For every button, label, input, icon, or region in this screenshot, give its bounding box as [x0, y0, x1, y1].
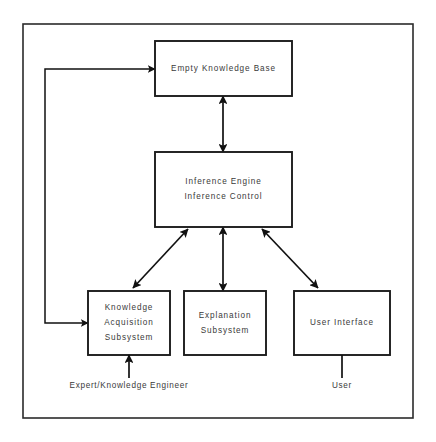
node-label-knowledge-acquisition-subsystem: Knowledge: [105, 303, 154, 312]
node-label-user-interface: User Interface: [310, 318, 374, 327]
caption-user: User: [332, 355, 352, 390]
node-box-inference-engine: [155, 152, 292, 227]
nodes-layer: Empty Knowledge BaseInference EngineInfe…: [88, 41, 390, 355]
node-explanation-subsystem: ExplanationSubsystem: [184, 291, 266, 355]
node-label-explanation-subsystem: Explanation: [199, 311, 252, 320]
node-inference-engine: Inference EngineInference Control: [155, 152, 292, 227]
knowledge-acquisition-feedback-path: [45, 69, 155, 323]
captions-layer: Expert/Knowledge EngineerUser: [69, 355, 352, 390]
inference-engine-knowledge-acquisition-connector: [133, 229, 188, 288]
node-label-knowledge-acquisition-subsystem: Subsystem: [105, 333, 154, 342]
node-label-inference-engine: Inference Engine: [185, 177, 261, 186]
node-knowledge-acquisition-subsystem: KnowledgeAcquisitionSubsystem: [88, 291, 170, 355]
inference-engine-user-interface-connector: [262, 229, 318, 288]
node-user-interface: User Interface: [294, 291, 390, 355]
user-caption: User: [332, 381, 352, 390]
diagram-canvas: Empty Knowledge BaseInference EngineInfe…: [0, 0, 436, 442]
caption-expert-knowledge-engineer: Expert/Knowledge Engineer: [69, 355, 188, 390]
node-label-knowledge-acquisition-subsystem: Acquisition: [104, 318, 154, 327]
node-empty-knowledge-base: Empty Knowledge Base: [155, 41, 292, 96]
node-label-explanation-subsystem: Subsystem: [201, 326, 250, 335]
node-label-empty-knowledge-base: Empty Knowledge Base: [171, 64, 276, 73]
expert-knowledge-engineer-caption: Expert/Knowledge Engineer: [69, 381, 188, 390]
node-box-explanation-subsystem: [184, 291, 266, 355]
feedback-path-layer: [45, 69, 155, 323]
expert-system-diagram: Empty Knowledge BaseInference EngineInfe…: [0, 0, 436, 442]
node-label-inference-engine: Inference Control: [184, 192, 262, 201]
